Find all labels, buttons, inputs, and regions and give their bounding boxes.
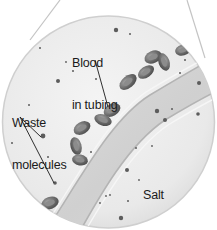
label-blood-line2: in tubing (72, 98, 117, 112)
label-salt-solution: Salt solution (143, 160, 185, 230)
label-waste-line1: Waste (12, 116, 66, 130)
label-blood-line1: Blood (72, 56, 117, 70)
dialysis-diagram: Blood in tubing Waste molecules Salt sol… (0, 0, 217, 230)
label-blood-in-tubing: Blood in tubing (72, 28, 117, 140)
label-waste-molecules: Waste molecules (12, 88, 66, 200)
label-waste-line2: molecules (12, 158, 66, 172)
label-salt-line1: Salt (143, 188, 185, 202)
